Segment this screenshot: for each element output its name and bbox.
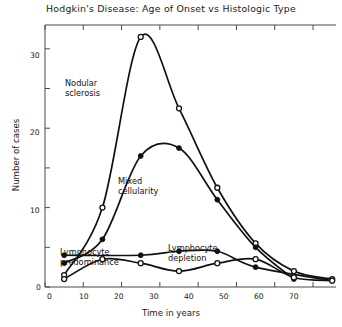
- data-point: [253, 245, 258, 250]
- data-point: [215, 197, 220, 202]
- data-point: [177, 249, 182, 254]
- data-point: [177, 106, 182, 111]
- plot-area: [0, 0, 342, 327]
- data-point: [138, 261, 143, 266]
- data-point: [215, 249, 220, 254]
- chart-figure: Hodgkin's Disease: Age of Onset vs Histo…: [0, 0, 342, 327]
- data-point: [291, 275, 296, 280]
- data-point: [291, 269, 296, 274]
- data-point: [62, 253, 67, 258]
- data-point: [138, 154, 143, 159]
- axis-frame: [45, 25, 336, 287]
- data-point: [177, 269, 182, 274]
- data-point: [330, 278, 335, 283]
- x-axis-ticks: [45, 25, 313, 287]
- series-line: [64, 143, 294, 279]
- data-point: [100, 205, 105, 210]
- data-point: [62, 277, 67, 282]
- data-point: [215, 185, 220, 190]
- data-point: [62, 261, 67, 266]
- data-point: [253, 265, 258, 270]
- data-point: [215, 261, 220, 266]
- series-nodular-sclerosis: [62, 34, 335, 281]
- axes: [45, 25, 336, 287]
- data-series-group: [62, 34, 335, 283]
- y-axis-ticks: [45, 49, 50, 287]
- data-point: [100, 237, 105, 242]
- series-line: [64, 34, 332, 279]
- data-point: [177, 146, 182, 151]
- data-point: [138, 34, 143, 39]
- data-point: [138, 253, 143, 258]
- data-point: [100, 257, 105, 262]
- data-point: [253, 257, 258, 262]
